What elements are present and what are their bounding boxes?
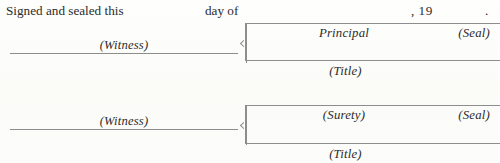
principal-caption-line: Principal (Seal) [246, 25, 494, 41]
witness-caption-2: (Witness) [10, 114, 238, 128]
witness-signature-rule-2[interactable] [10, 129, 238, 130]
witness-signature-area-2[interactable]: (Witness) [10, 114, 238, 130]
principal-role-caption: Principal [246, 25, 494, 41]
statement-lead-text: Signed and sealed this [6, 2, 124, 20]
surety-signature-box[interactable]: (Surety) (Seal) [245, 105, 500, 144]
witness-signature-area-1[interactable]: (Witness) [10, 38, 238, 54]
surety-seal-caption: (Seal) [458, 107, 490, 123]
statement-day-of-text: day of [205, 2, 238, 20]
surety-role-caption: (Surety) [246, 107, 494, 123]
principal-seal-caption: (Seal) [458, 25, 490, 41]
principal-title-caption: (Title) [245, 64, 498, 79]
signature-block-principal: (Witness) Principal (Seal) (Title) [0, 22, 498, 88]
statement-year-text: , 19 [411, 2, 433, 20]
statement-period-text: . [485, 2, 488, 20]
signature-block-surety: (Witness) (Surety) (Seal) (Title) [0, 104, 498, 163]
surety-caption-line: (Surety) (Seal) [246, 107, 494, 123]
surety-title-caption: (Title) [245, 147, 498, 162]
witness-caption-1: (Witness) [10, 38, 238, 52]
principal-signature-box[interactable]: Principal (Seal) [245, 23, 500, 61]
witness-signature-rule-1[interactable] [10, 53, 238, 54]
signing-statement-line: Signed and sealed this day of , 19 . [6, 2, 494, 20]
